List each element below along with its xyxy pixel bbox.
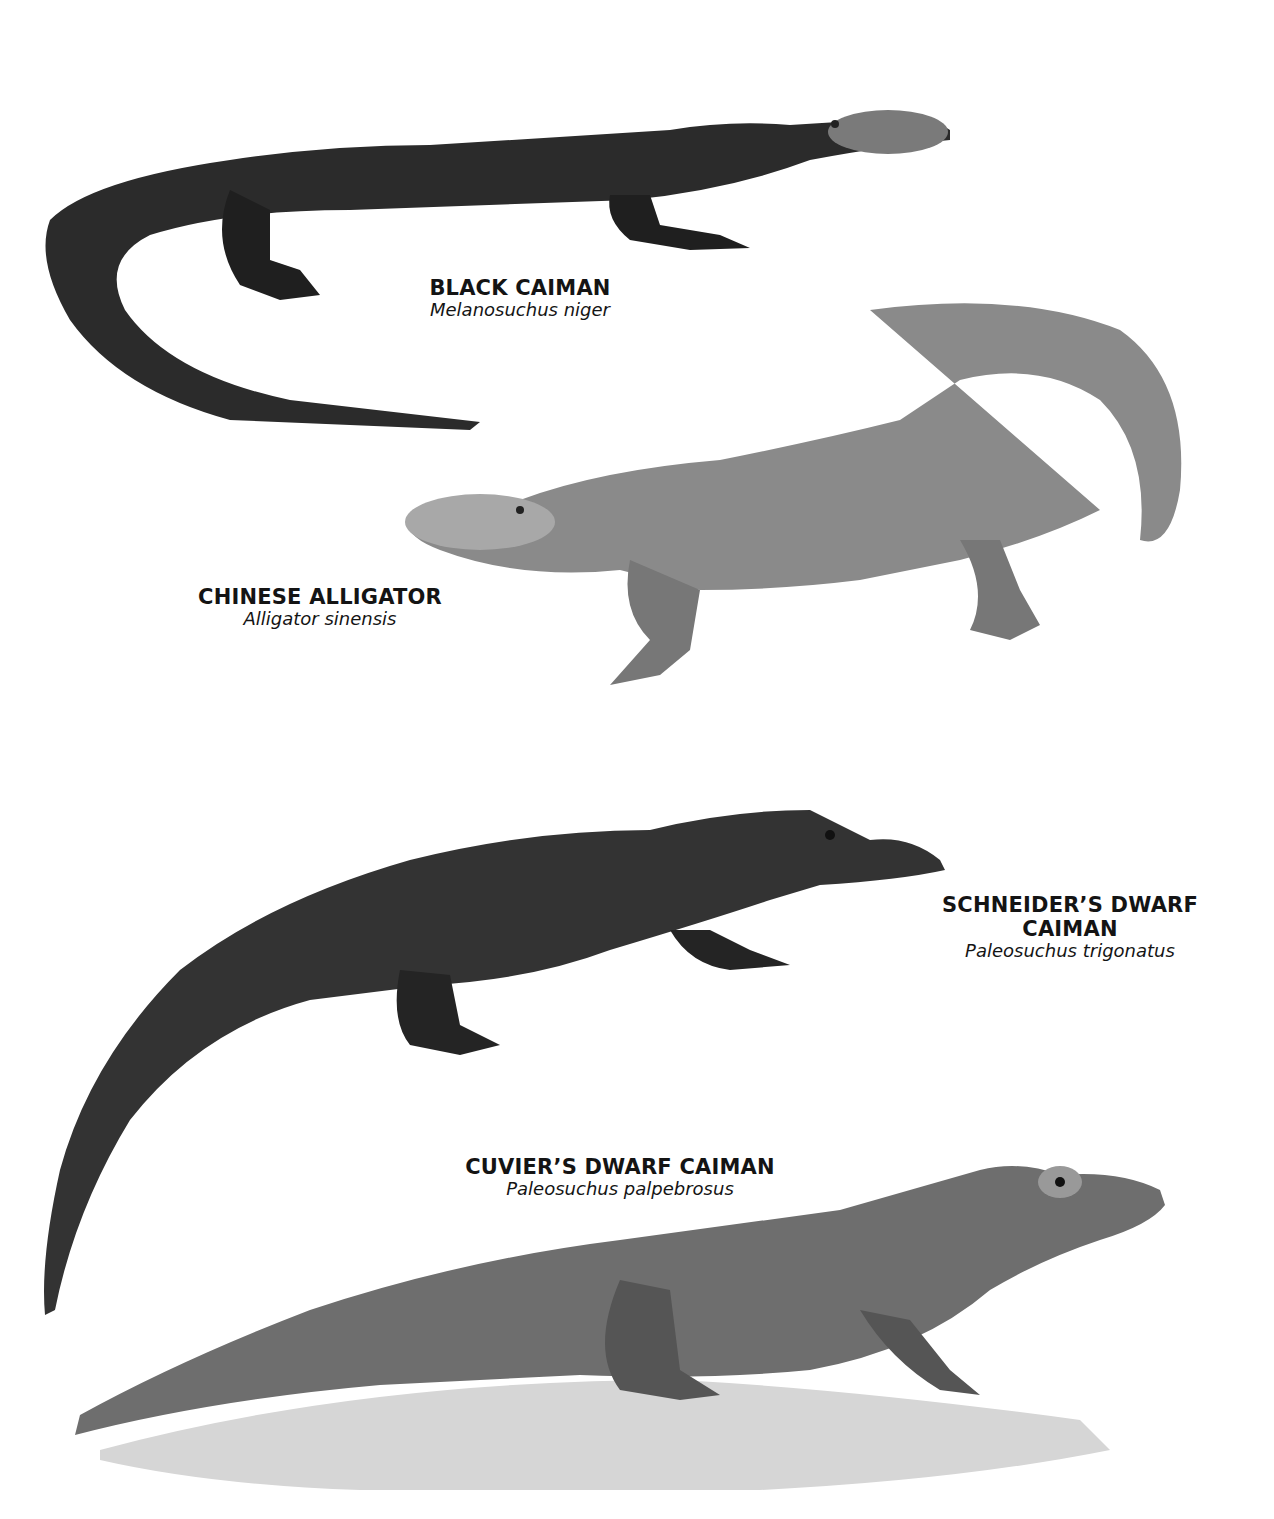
common-name-line-2: CAIMAN: [925, 917, 1215, 941]
chinese-alligator-illustration: [400, 290, 1200, 710]
cuviers-dwarf-caiman-label: CUVIER’S DWARF CAIMAN Paleosuchus palpeb…: [440, 1155, 800, 1200]
schneiders-dwarf-caiman-label: SCHNEIDER’S DWARF CAIMAN Paleosuchus tri…: [925, 893, 1215, 962]
common-name-line-1: SCHNEIDER’S DWARF: [925, 893, 1215, 917]
scientific-name: Alligator sinensis: [180, 609, 460, 630]
common-name: CUVIER’S DWARF CAIMAN: [440, 1155, 800, 1179]
scientific-name: Paleosuchus palpebrosus: [440, 1179, 800, 1200]
cuviers-dwarf-caiman-illustration: [60, 1150, 1170, 1500]
common-name: CHINESE ALLIGATOR: [180, 585, 460, 609]
chinese-alligator-label: CHINESE ALLIGATOR Alligator sinensis: [180, 585, 460, 630]
scientific-name: Paleosuchus trigonatus: [925, 941, 1215, 962]
